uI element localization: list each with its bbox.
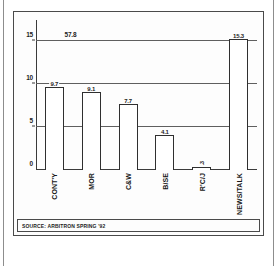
bar-value-label: 7.7 [123,98,133,104]
y-axis-tick-mark [32,126,35,127]
page-border-right [273,0,274,266]
y-axis-tick-label: 0 [30,160,33,167]
plot-area: 051015 57.8 9.7CONT'Y9.1MOR7.7C&W4.1B/SE… [36,20,257,170]
y-axis-tick-mark [32,40,35,41]
bar-group: 9.1MOR [82,20,101,170]
y-axis-tick-label: 15 [26,31,33,38]
bar-value-label: 4.1 [160,129,170,135]
chart-page: 051015 57.8 9.7CONT'Y9.1MOR7.7C&W4.1B/SE… [0,0,277,266]
bar-group: 7.7C&W [119,20,138,170]
source-caption: SOURCE: ARBITRON SPRING '92 [18,223,105,229]
bar: 9.7 [45,87,64,170]
y-axis-tick-label: 10 [26,74,33,81]
x-axis-category-label: R'C/J [198,173,205,191]
bar-group: 4.1B/SE [155,20,174,170]
x-axis-category-label: MOR [88,173,95,190]
bar: 7.7 [119,104,138,170]
bar-group: .3R'C/J [192,20,211,170]
bar-value-label: 9.1 [86,86,96,92]
bar: 4.1 [155,135,174,170]
bar: .3 [192,167,211,170]
x-axis-category-label: B/SE [161,173,168,190]
source-box: SOURCE: ARBITRON SPRING '92 [17,219,260,232]
bar-group: 15.3NEWS/TALK [229,20,248,170]
x-axis-category-label: C&W [125,173,132,190]
x-axis-category-label: CONT'Y [51,173,58,200]
bar-value-label: 9.7 [50,81,60,87]
page-border-left [3,0,4,266]
bar-group: 9.7CONT'Y [45,20,64,170]
y-axis-tick-mark [32,83,35,84]
bar: 15.3 [229,39,248,170]
bar-value-label: 15.3 [232,33,245,39]
y-axis-tick-label: 5 [30,117,33,124]
bar-value-label: .3 [199,160,205,167]
plot-inner: 051015 57.8 9.7CONT'Y9.1MOR7.7C&W4.1B/SE… [36,20,257,170]
chart-frame: 051015 57.8 9.7CONT'Y9.1MOR7.7C&W4.1B/SE… [13,11,264,236]
x-axis-category-label: NEWS/TALK [235,173,242,215]
bar: 9.1 [82,92,101,170]
bar-series: 9.7CONT'Y9.1MOR7.7C&W4.1B/SE.3R'C/J15.3N… [36,20,257,170]
